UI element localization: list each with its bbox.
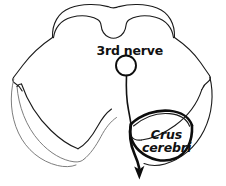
tectum-colliculi — [52, 5, 174, 39]
interpeduncular-fossa — [78, 109, 117, 159]
crus-cerebri-label-line2: cerebri — [142, 140, 192, 155]
midbrain-drawing-canvas: 3rd nerve Crus cerebri — [0, 0, 226, 186]
third-nerve-fiber-line — [126, 76, 131, 125]
third-nerve-nucleus-circle — [116, 56, 136, 76]
midbrain-diagram: 3rd nerve Crus cerebri — [0, 0, 226, 186]
crus-cerebri-left — [17, 84, 84, 162]
third-nerve-label: 3rd nerve — [97, 43, 164, 58]
third-nerve-nucleus — [116, 56, 136, 76]
